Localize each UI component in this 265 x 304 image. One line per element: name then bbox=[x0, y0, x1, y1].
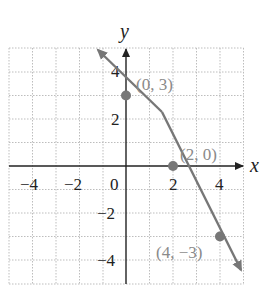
data-point bbox=[215, 232, 225, 242]
y-axis-label: y bbox=[118, 20, 129, 43]
point-label: (2, 0) bbox=[180, 145, 217, 164]
y-tick-label: −4 bbox=[97, 251, 116, 270]
point-label: (4, −3) bbox=[156, 243, 202, 262]
coordinate-plane: x y −4 −2 0 2 4 4 2 −2 −4 (0, 3) (2, 0) … bbox=[0, 0, 265, 304]
x-tick-label: 0 bbox=[110, 175, 119, 194]
data-point bbox=[168, 161, 178, 171]
x-tick-label: −4 bbox=[20, 175, 39, 194]
x-axis-label: x bbox=[249, 154, 259, 176]
x-tick-label: 2 bbox=[169, 175, 178, 194]
y-tick-label: −2 bbox=[97, 204, 115, 223]
point-label: (0, 3) bbox=[136, 75, 173, 94]
y-tick-label: 2 bbox=[111, 110, 120, 129]
x-tick-label: 4 bbox=[215, 175, 224, 194]
data-point bbox=[121, 91, 131, 101]
x-tick-label: −2 bbox=[64, 175, 82, 194]
